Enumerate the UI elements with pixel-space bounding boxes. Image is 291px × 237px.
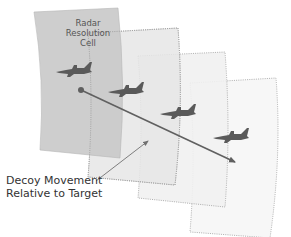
cell-label-line-3: Cell <box>48 38 128 48</box>
radar-resolution-cell-label: Radar Resolution Cell <box>48 18 128 48</box>
cell-label-line-2: Resolution <box>48 28 128 38</box>
cell-label-line-1: Radar <box>48 18 128 28</box>
diagram-canvas <box>0 0 291 237</box>
decoy-label-line-2: Relative to Target <box>6 187 102 200</box>
decoy-label-line-1: Decoy Movement <box>6 174 102 187</box>
decoy-movement-label: Decoy Movement Relative to Target <box>6 174 102 200</box>
